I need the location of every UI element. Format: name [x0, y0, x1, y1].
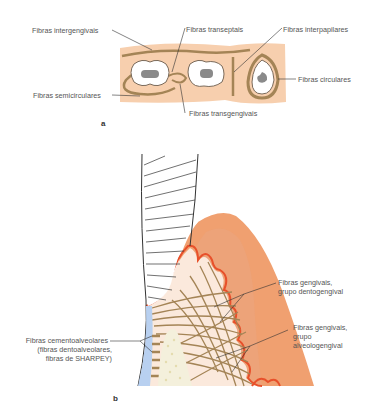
panel-letter-b: b — [113, 394, 118, 403]
gingival-fibers-diagram: Fibras intergengivais Fibras transeptais… — [0, 0, 383, 411]
label-fibras-semicirculares: Fibras semicirculares — [33, 91, 101, 100]
tooth-2-pulp — [200, 69, 213, 78]
label-alveologengival-line1: Fibras gengivais, — [293, 323, 347, 332]
label-fibras-interpapilares: Fibras interpapilares — [283, 25, 349, 34]
label-fibras-transgengivais: Fibras transgengivais — [189, 109, 258, 118]
label-cemento-line2: (fibras dentoalveolares, — [37, 345, 112, 354]
panel-b: Fibras gengivais, grupo dentogengival Fi… — [26, 154, 348, 403]
label-fibras-circulares: Fibras circulares — [298, 75, 351, 84]
panel-letter-a: a — [101, 119, 106, 128]
label-fibras-transeptais: Fibras transeptais — [186, 25, 244, 34]
label-cemento-line1: Fibras cementoalveolares — [26, 336, 109, 345]
label-dentogengival-line2: grupo dentogengival — [278, 287, 344, 296]
label-cemento-line3: fibras de SHARPEY) — [46, 354, 112, 363]
label-dentogengival-line1: Fibras gengivais, — [278, 278, 332, 287]
tooth-1-pulp — [141, 70, 159, 78]
label-alveologengival-line3: alveologengival — [293, 341, 343, 350]
panel-a: Fibras intergengivais Fibras transeptais… — [32, 25, 351, 128]
label-fibras-intergengivais: Fibras intergengivais — [32, 26, 99, 35]
label-alveologengival-line2: grupo — [293, 332, 311, 341]
